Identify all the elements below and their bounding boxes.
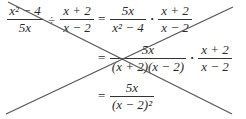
strike-through-lines — [0, 0, 246, 119]
math-derivation: x² − 4 5x ÷ x + 2 x − 2 = 5x x² − 4 · x … — [0, 0, 246, 119]
